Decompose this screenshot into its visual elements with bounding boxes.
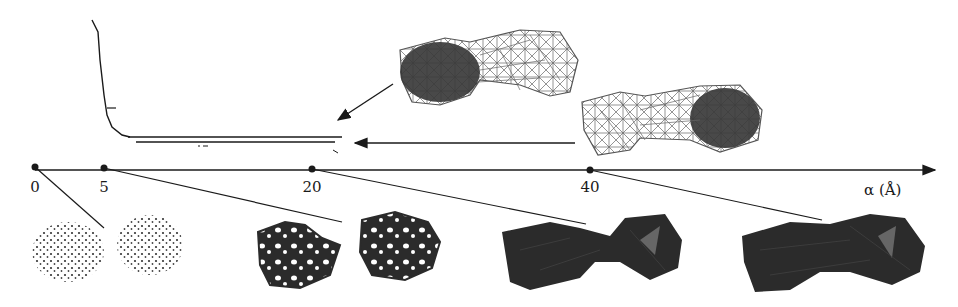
tick-label-5: 5 (99, 180, 109, 195)
arrow-to-bar-1 (338, 84, 393, 120)
axis-label: α (Å) (864, 183, 901, 198)
tick-label-20: 20 (302, 180, 321, 195)
tick-label-0: 0 (30, 180, 40, 195)
filled-dumbbell (742, 214, 925, 292)
wireframe-dumbbell-left-cavity (400, 30, 578, 105)
wireframe-dumbbell-right-cavity (582, 85, 762, 155)
sparse-complex-pair (258, 212, 440, 288)
alpha-filtration-diagram (0, 0, 958, 307)
tick-label-40: 40 (580, 180, 599, 195)
dumbbell-complex (502, 214, 682, 290)
point-cloud-pair (32, 215, 183, 282)
persistence-plot (92, 20, 342, 153)
